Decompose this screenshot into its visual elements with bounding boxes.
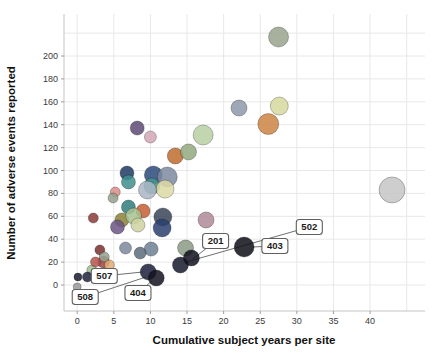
data-bubble (120, 242, 132, 254)
x-tick-label: 0 (75, 316, 80, 326)
x-tick-label: 30 (292, 316, 302, 326)
callout-label: 403 (267, 240, 283, 251)
data-bubble (148, 270, 164, 286)
data-bubble (153, 219, 171, 237)
x-tick-label: 20 (219, 316, 229, 326)
y-tick-label: 0 (53, 280, 58, 290)
data-bubble (131, 218, 145, 232)
y-tick-label: 160 (43, 97, 58, 107)
callout-label: 502 (301, 221, 317, 232)
x-tick-label: 5 (111, 316, 116, 326)
data-bubble (183, 250, 199, 266)
y-tick-label: 180 (43, 74, 58, 84)
callout-label: 507 (96, 270, 112, 281)
data-bubble (231, 100, 247, 116)
data-bubble (258, 114, 279, 135)
y-axis-title: Number of adverse events reported (5, 66, 17, 260)
x-tick-label: 35 (328, 316, 338, 326)
data-bubble (138, 181, 156, 199)
y-tick-label: 140 (43, 120, 58, 130)
y-tick-label: 20 (48, 257, 58, 267)
data-bubble (198, 212, 214, 228)
data-bubble (130, 121, 144, 135)
data-bubble (270, 97, 288, 115)
y-tick-label: 100 (43, 166, 58, 176)
data-bubble (180, 144, 196, 160)
data-bubble (144, 131, 156, 143)
x-tick-label: 40 (365, 316, 375, 326)
data-bubble (193, 125, 213, 145)
data-bubble (121, 175, 135, 189)
y-tick-label: 120 (43, 143, 58, 153)
x-tick-label: 10 (145, 316, 155, 326)
bubble-chart: 5085074042014035020510152025303540020406… (0, 0, 434, 361)
data-bubble (234, 237, 254, 257)
data-bubble (379, 177, 405, 203)
y-tick-label: 40 (48, 234, 58, 244)
data-bubble (74, 273, 82, 281)
x-axis-title: Cumulative subject years per site (153, 334, 336, 346)
data-bubble (108, 193, 118, 203)
data-bubble (269, 27, 289, 47)
data-bubble (90, 257, 100, 267)
data-bubble (88, 213, 98, 223)
data-bubble (110, 220, 124, 234)
chart-plot-area: 5085074042014035020510152025303540020406… (43, 14, 425, 326)
callout-label: 201 (208, 235, 225, 246)
x-tick-label: 15 (182, 316, 192, 326)
callout-label: 508 (77, 291, 93, 302)
x-tick-label: 25 (255, 316, 265, 326)
y-tick-label: 60 (48, 211, 58, 221)
y-tick-label: 80 (48, 188, 58, 198)
data-bubble (156, 180, 174, 198)
data-bubble (134, 247, 146, 259)
chart-figure: 5085074042014035020510152025303540020406… (0, 0, 434, 361)
y-tick-label: 200 (43, 51, 58, 61)
callout-label: 404 (130, 287, 147, 298)
